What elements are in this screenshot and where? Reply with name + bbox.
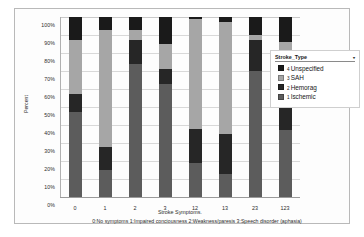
bar-segment[interactable] [69, 94, 82, 112]
gridline [60, 179, 300, 180]
bar-segment[interactable] [159, 17, 172, 44]
plot-area [60, 17, 300, 197]
bar-segment[interactable] [159, 44, 172, 69]
gridline [60, 161, 300, 162]
bar-segment[interactable] [129, 30, 142, 41]
gridline [60, 17, 300, 18]
bar-segment[interactable] [69, 112, 82, 197]
legend-title[interactable]: Stroke_Type ▾ [275, 54, 355, 62]
gridline [60, 107, 300, 108]
x-axis-title: Stroke Symptoms. [60, 209, 300, 215]
bar-group[interactable] [189, 17, 202, 197]
gridline [60, 53, 300, 54]
bar-segment[interactable] [129, 17, 142, 30]
gridline [60, 125, 300, 126]
y-axis-tick-label: 80% [44, 58, 55, 64]
bar-segment[interactable] [279, 107, 292, 130]
bar-segment[interactable] [279, 130, 292, 197]
bar-segment[interactable] [219, 134, 232, 174]
bar-group[interactable] [99, 17, 112, 197]
legend-item[interactable]: 1 Ischemic [278, 93, 355, 100]
bar-segment[interactable] [219, 174, 232, 197]
bar-segment[interactable] [189, 19, 202, 129]
bar-segment[interactable] [99, 170, 112, 197]
bar-segment[interactable] [99, 17, 112, 30]
bar-group[interactable] [129, 17, 142, 197]
bar-segment[interactable] [99, 147, 112, 170]
bar-segment[interactable] [279, 17, 292, 42]
y-axis-tick-label: 60% [44, 94, 55, 100]
bar-segment[interactable] [249, 71, 262, 197]
gridline [60, 35, 300, 36]
bar-segment[interactable] [189, 129, 202, 163]
gridlines [60, 17, 300, 197]
y-axis-tick-label: 70% [44, 76, 55, 82]
gridline [60, 197, 300, 198]
chart-container: Percent 0%10%20%30%40%50%60%70%80%90%100… [14, 8, 350, 224]
y-axis-tick-label: 20% [44, 166, 55, 172]
y-axis-labels: Percent 0%10%20%30%40%50%60%70%80%90%100… [29, 17, 58, 197]
legend-item-label: 2 Hemorag [287, 84, 317, 91]
y-axis-tick-label: 0% [47, 202, 55, 208]
legend-items: 4 Unspecified3 SAH2 Hemorag1 Ischemic [275, 65, 355, 101]
legend-item[interactable]: 2 Hemorag [278, 84, 355, 91]
legend-item-label: 4 Unspecified [287, 65, 324, 72]
gridline [60, 143, 300, 144]
legend-swatch-icon [278, 94, 284, 100]
bar-group[interactable] [159, 17, 172, 197]
bar-segment[interactable] [159, 84, 172, 197]
bar-segment[interactable] [189, 163, 202, 197]
bar-segment[interactable] [189, 17, 202, 19]
gridline [60, 71, 300, 72]
y-axis-tick-label: 50% [44, 112, 55, 118]
legend-panel[interactable]: Stroke_Type ▾ 4 Unspecified3 SAH2 Hemora… [270, 50, 360, 108]
bar-segment[interactable] [249, 17, 262, 35]
legend-item[interactable]: 3 SAH [278, 74, 355, 81]
bar-segment[interactable] [129, 64, 142, 197]
gridline [60, 89, 300, 90]
bar-segment[interactable] [249, 40, 262, 71]
y-axis-line [60, 17, 61, 197]
footnote-legend-text: 0:No symptoms 1:Impaired conciousness 2:… [31, 218, 363, 224]
y-axis-tick-label: 10% [44, 184, 55, 190]
legend-item-label: 3 SAH [287, 74, 304, 81]
bar-segment[interactable] [69, 40, 82, 94]
bar-group[interactable] [219, 17, 232, 197]
bar-group[interactable] [249, 17, 262, 197]
y-axis-title: Percent [23, 95, 29, 113]
y-axis-tick-label: 40% [44, 130, 55, 136]
legend-swatch-icon [278, 84, 284, 90]
bar-segment[interactable] [129, 40, 142, 63]
y-axis-tick-label: 90% [44, 40, 55, 46]
bar-segment[interactable] [249, 35, 262, 40]
legend-item-label: 1 Ischemic [287, 93, 316, 100]
legend-swatch-icon [278, 65, 284, 71]
legend-item[interactable]: 4 Unspecified [278, 65, 355, 72]
y-axis-tick-label: 100% [41, 22, 55, 28]
bar-segment[interactable] [69, 17, 82, 40]
chevron-down-icon[interactable]: ▾ [353, 55, 355, 60]
y-axis-tick-label: 30% [44, 148, 55, 154]
bar-segment[interactable] [219, 22, 232, 134]
bar-segment[interactable] [99, 30, 112, 147]
legend-title-label: Stroke_Type [275, 54, 307, 60]
legend-swatch-icon [278, 75, 284, 81]
bar-segment[interactable] [219, 17, 232, 22]
bar-group[interactable] [69, 17, 82, 197]
bar-segment[interactable] [159, 69, 172, 83]
